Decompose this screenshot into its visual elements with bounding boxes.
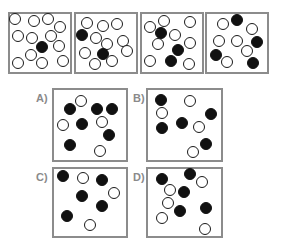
sequence-panel-1-black-circle — [36, 41, 48, 53]
sequence-panel-2-white-circle — [121, 45, 133, 57]
sequence-panel-1-white-circle — [12, 30, 24, 42]
option-3-white-circle — [84, 219, 96, 231]
option-2-black-circle — [176, 117, 188, 129]
option-2-white-circle — [184, 95, 196, 107]
option-4-white-circle — [162, 197, 174, 209]
sequence-panel-2-white-circle — [106, 55, 118, 67]
sequence-panel-2-white-circle — [89, 58, 101, 70]
option-3-black-circle — [61, 210, 73, 222]
sequence-panel-3-black-circle — [172, 44, 184, 56]
sequence-panel-2-white-circle — [111, 18, 123, 30]
sequence-panel-1-white-circle — [28, 15, 40, 27]
sequence-panel-3-white-circle — [152, 38, 164, 50]
option-4-white-circle — [196, 176, 208, 188]
sequence-panel-1-white-circle — [57, 55, 69, 67]
option-2-black-circle — [200, 138, 212, 150]
option-3-white-circle — [108, 187, 120, 199]
sequence-panel-4-white-circle — [241, 45, 253, 57]
option-2-black-circle — [155, 94, 167, 106]
sequence-panel-1-white-circle — [26, 32, 38, 44]
sequence-panel-2-white-circle — [79, 47, 91, 59]
option-1-black-circle — [91, 103, 103, 115]
sequence-panel-4-white-circle — [213, 35, 225, 47]
sequence-panel-3-white-circle — [183, 58, 195, 70]
option-3-black-circle — [76, 190, 88, 202]
option-1-black-circle — [64, 103, 76, 115]
sequence-panel-3-white-circle — [184, 16, 196, 28]
sequence-panel-3-white-circle — [144, 55, 156, 67]
option-4-black-circle — [184, 168, 196, 180]
sequence-panel-3-white-circle — [184, 37, 196, 49]
sequence-panel-1-white-circle — [12, 57, 24, 69]
option-3-black-circle — [57, 170, 69, 182]
sequence-panel-4-black-circle — [247, 57, 259, 69]
option-2-white-circle — [193, 121, 205, 133]
option-1-white-circle — [75, 95, 87, 107]
option-2-white-circle — [187, 146, 199, 158]
option-1-white-circle — [96, 116, 108, 128]
sequence-panel-4-white-circle — [221, 56, 233, 68]
option-4-white-circle — [156, 212, 168, 224]
option-3-black-circle — [96, 200, 108, 212]
sequence-panel-4-white-circle — [246, 23, 258, 35]
sequence-panel-3-black-circle — [165, 55, 177, 67]
option-c-label: C) — [36, 171, 48, 183]
option-1-black-circle — [103, 129, 115, 141]
option-b-label: B) — [133, 92, 145, 104]
sequence-panel-3-white-circle — [158, 15, 170, 27]
option-4-black-circle — [200, 202, 212, 214]
option-4-white-circle — [164, 184, 176, 196]
option-d-label: D) — [133, 171, 145, 183]
sequence-panel-1-white-circle — [53, 40, 65, 52]
option-1-black-circle — [64, 139, 76, 151]
option-1-white-circle — [57, 119, 69, 131]
sequence-panel-1-white-circle — [9, 13, 21, 25]
sequence-panel-4-black-circle — [251, 36, 263, 48]
option-4-white-circle — [199, 223, 211, 235]
sequence-panel-2-white-circle — [97, 20, 109, 32]
option-4-black-circle — [178, 186, 190, 198]
sequence-panel-1-white-circle — [36, 57, 48, 69]
option-2-white-circle — [156, 107, 168, 119]
option-1-black-circle — [76, 118, 88, 130]
option-1-black-circle — [106, 103, 118, 115]
option-3-black-circle — [96, 174, 108, 186]
option-1-white-circle — [94, 145, 106, 157]
option-3-white-circle — [77, 172, 89, 184]
sequence-panel-1-white-circle — [54, 21, 66, 33]
sequence-panel-2-black-circle — [76, 29, 88, 41]
option-a-label: A) — [36, 92, 48, 104]
sequence-panel-1-white-circle — [25, 49, 37, 61]
option-4-black-circle — [174, 205, 186, 217]
sequence-panel-2-white-circle — [81, 17, 93, 29]
sequence-panel-4-black-circle — [210, 49, 222, 61]
sequence-panel-4-black-circle — [231, 14, 243, 26]
option-4-black-circle — [156, 173, 168, 185]
option-2-black-circle — [156, 122, 168, 134]
option-2-black-circle — [205, 108, 217, 120]
sequence-panel-1-white-circle — [42, 13, 54, 25]
sequence-panel-4-white-circle — [231, 35, 243, 47]
sequence-panel-3-white-circle — [169, 29, 181, 41]
sequence-panel-4-white-circle — [217, 18, 229, 30]
